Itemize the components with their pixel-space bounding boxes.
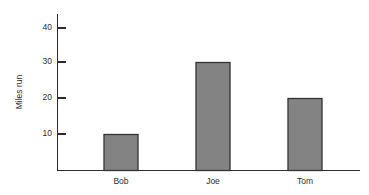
y-axis-title: Miles run (14, 74, 24, 109)
bar-chart-figure: Miles run 40 30 20 10 Bob Joe Tom (0, 0, 369, 195)
x-category-label-tom: Tom (297, 176, 313, 186)
y-tick-label-40: 40 (43, 22, 53, 32)
bar-tom (288, 99, 322, 171)
chart-canvas: Miles run 40 30 20 10 Bob Joe Tom (0, 0, 369, 195)
bar-bob (104, 135, 138, 171)
x-category-label-bob: Bob (113, 176, 128, 186)
bar-joe (196, 63, 230, 171)
y-tick-label-30: 30 (43, 56, 53, 66)
y-tick-label-10: 10 (43, 128, 53, 138)
x-category-label-joe: Joe (206, 176, 220, 186)
y-tick-label-20: 20 (43, 92, 53, 102)
